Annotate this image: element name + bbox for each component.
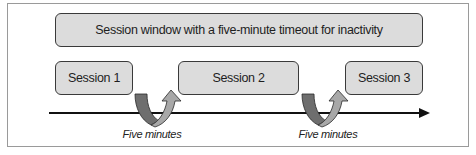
- gap-2-label: Five minutes: [299, 128, 358, 140]
- timeline-arrow: [49, 108, 430, 118]
- diagram-graphics: [0, 0, 476, 155]
- u-turn-arrow-icon: [135, 90, 181, 127]
- gap-1-label: Five minutes: [123, 128, 182, 140]
- u-turn-arrow-icon: [302, 90, 348, 127]
